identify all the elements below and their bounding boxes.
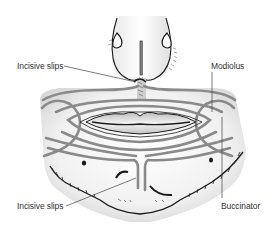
label-buccinator: Buccinator (221, 201, 260, 211)
label-modiolus: Modiolus (211, 61, 244, 71)
label-incisive-slips-lower: Incisive slips (17, 201, 63, 211)
anatomy-illustration (0, 0, 276, 233)
nose (108, 16, 177, 100)
label-incisive-slips-upper: Incisive slips (17, 61, 63, 71)
